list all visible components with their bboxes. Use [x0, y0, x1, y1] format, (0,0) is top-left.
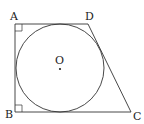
right-angle-marker-a	[15, 24, 22, 31]
side-dc	[88, 24, 131, 112]
label-a: A	[9, 10, 19, 23]
label-o: O	[55, 54, 64, 67]
label-c: C	[133, 110, 141, 123]
trapezoid-diagram: A D B C O	[0, 0, 144, 124]
right-angle-marker-b	[15, 105, 22, 112]
label-b: B	[5, 108, 13, 121]
center-point	[59, 68, 61, 70]
label-d: D	[85, 10, 94, 23]
